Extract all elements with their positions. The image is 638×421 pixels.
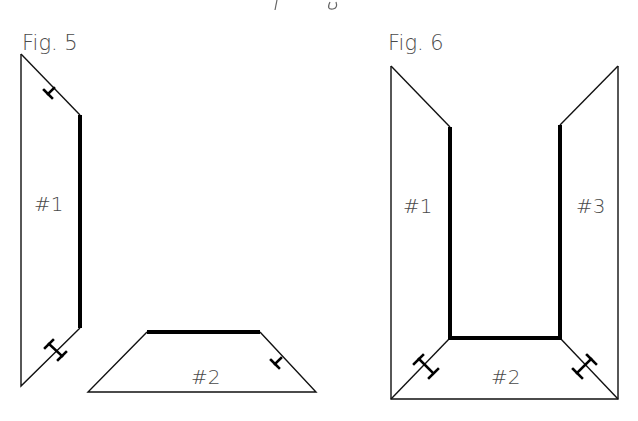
bracket-icon [271,358,281,368]
bracket-icon [45,340,66,360]
bracket-icon [573,355,596,378]
fig6-panel-3-label: #3 [576,194,605,218]
bracket-icon [44,88,54,98]
fig6-panel-2: #2 [491,365,520,389]
fig5-panel-1: #1 [21,54,80,386]
figure-6-title: Fig. 6 [388,31,444,55]
fig5-panel-2-label: #2 [191,365,220,389]
figure-6: Fig. 6 #1 #2 #3 [388,31,618,399]
fig5-panel-2: #2 [88,332,316,392]
assembly-diagram: Fig. 5 #1 [0,0,638,421]
fig6-panel-1: #1 [403,194,432,218]
bracket-icon [414,355,438,378]
figure-5-title: Fig. 5 [22,31,78,55]
fig6-panel-3: #3 [576,194,605,218]
cropped-heading [275,0,337,10]
figure-5: Fig. 5 #1 [21,31,316,392]
fig6-panel-2-label: #2 [491,365,520,389]
fig5-panel-1-label: #1 [34,192,63,216]
fig6-panel-1-label: #1 [403,194,432,218]
